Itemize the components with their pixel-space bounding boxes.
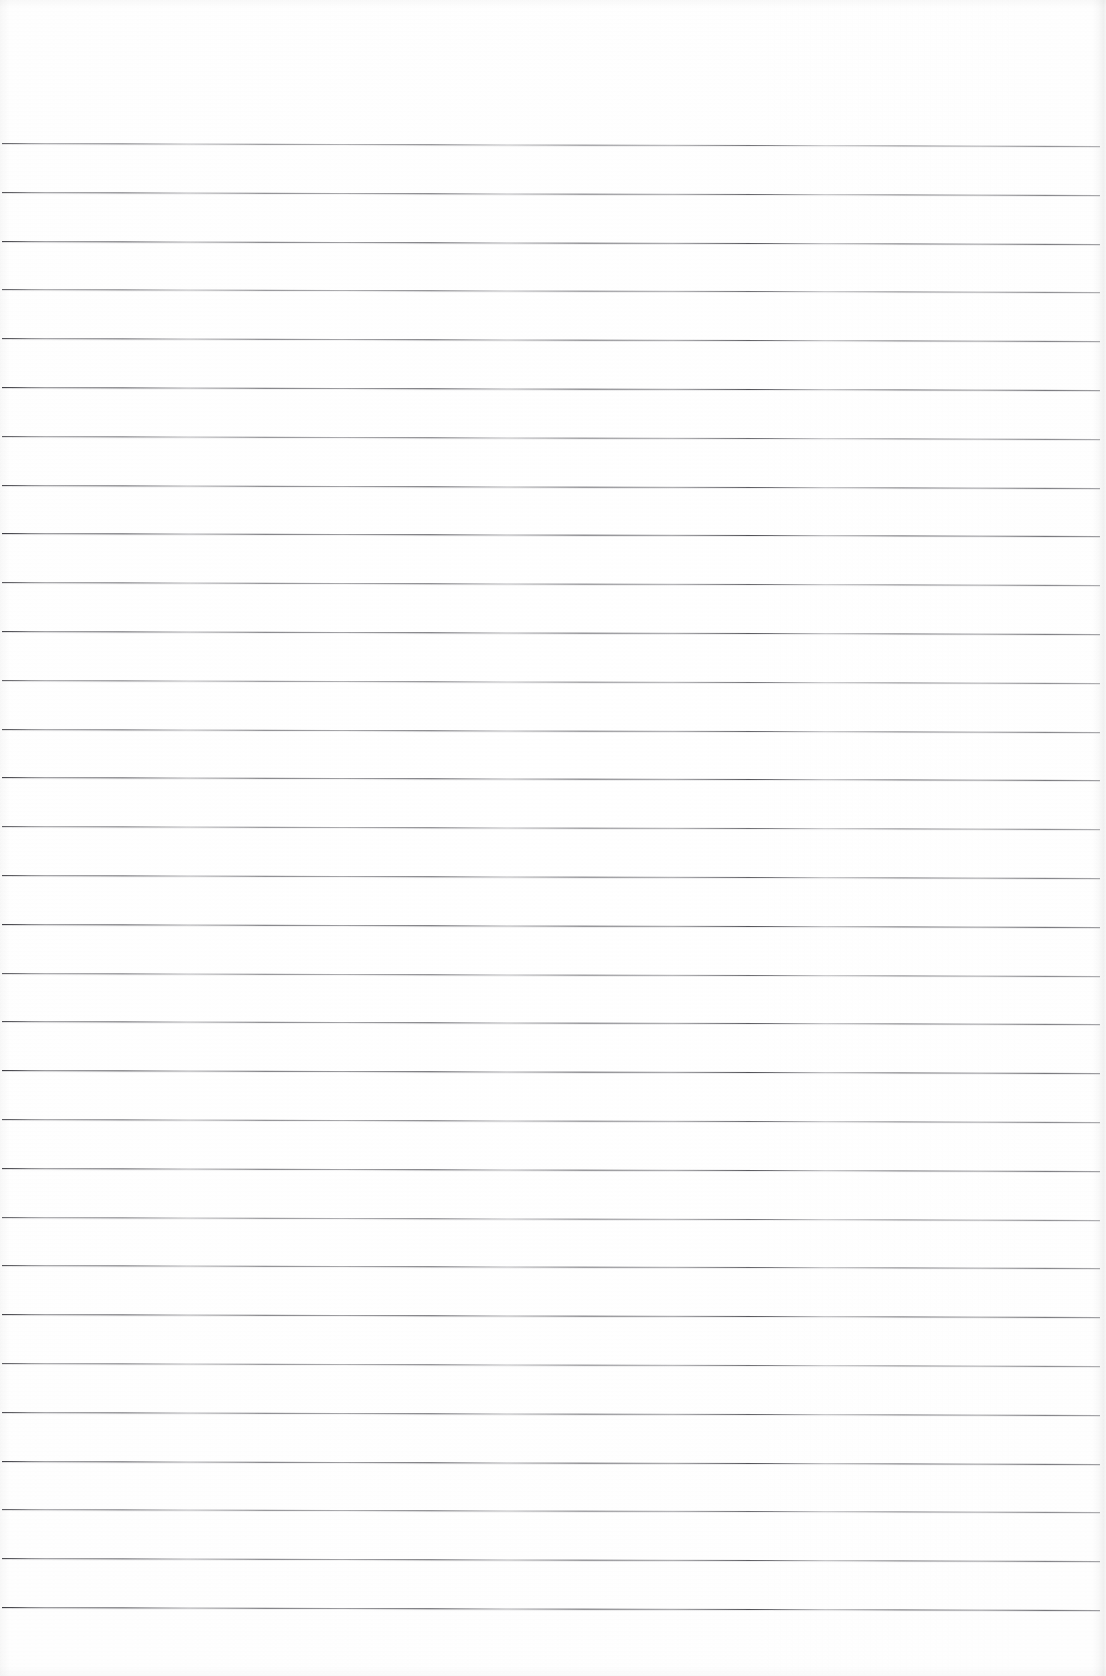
- ruled-line-stroke: [2, 1265, 1100, 1269]
- ruled-line-start-mark: [2, 241, 28, 243]
- ruled-line-stroke: [2, 826, 1100, 830]
- ruled-line-stroke: [2, 143, 1100, 147]
- ruled-line-halo: [2, 730, 1100, 734]
- ruled-line: [2, 337, 1100, 343]
- ruled-line: [2, 1362, 1100, 1368]
- ruled-line-start-mark: [2, 289, 28, 291]
- ruled-line-start-mark: [2, 1412, 28, 1414]
- ruled-line-start-mark: [2, 973, 28, 975]
- ruled-line: [2, 679, 1100, 685]
- ruled-line-stroke: [2, 289, 1100, 293]
- ruled-line-stroke: [2, 387, 1100, 391]
- ruled-line-start-mark: [2, 1119, 28, 1121]
- ruled-line-halo: [2, 1266, 1100, 1270]
- ruled-line-start-mark: [2, 631, 28, 633]
- ruled-line-start-mark: [2, 777, 28, 779]
- ruled-line-stroke: [2, 1607, 1100, 1611]
- ruled-line-halo: [2, 876, 1100, 880]
- ruled-line-halo: [2, 1071, 1100, 1075]
- ruled-line-stroke: [2, 631, 1100, 635]
- ruled-line-start-mark: [2, 1509, 28, 1511]
- ruled-line-halo: [2, 583, 1100, 587]
- ruled-line-start-mark: [2, 533, 28, 535]
- ruled-line-layer: [0, 0, 1106, 1676]
- ruled-line: [2, 972, 1100, 978]
- ruled-line-stroke: [2, 241, 1100, 245]
- ruled-line-start-mark: [2, 1314, 28, 1316]
- ruled-line: [2, 1508, 1100, 1514]
- ruled-line-start-mark: [2, 192, 28, 194]
- ruled-line: [2, 240, 1100, 246]
- ruled-line-halo: [2, 778, 1100, 782]
- ruled-line: [2, 923, 1100, 929]
- ruled-line-halo: [2, 1169, 1100, 1173]
- ruled-line-halo: [2, 632, 1100, 636]
- ruled-line-halo: [2, 339, 1100, 343]
- ruled-line-halo: [2, 1022, 1100, 1026]
- ruled-line: [2, 288, 1100, 294]
- ruled-line-halo: [2, 1120, 1100, 1124]
- ruled-line-stroke: [2, 1021, 1100, 1025]
- ruled-line-halo: [2, 1315, 1100, 1319]
- ruled-line-stroke: [2, 485, 1100, 489]
- ruled-line-start-mark: [2, 387, 28, 389]
- ruled-line-start-mark: [2, 338, 28, 340]
- ruled-line-stroke: [2, 1461, 1100, 1465]
- ruled-line: [2, 435, 1100, 441]
- ruled-line: [2, 1069, 1100, 1075]
- ruled-line: [2, 191, 1100, 197]
- ruled-line: [2, 776, 1100, 782]
- ruled-line: [2, 874, 1100, 880]
- ruled-line-stroke: [2, 1558, 1100, 1562]
- ruled-line: [2, 1411, 1100, 1417]
- ruled-line-start-mark: [2, 485, 28, 487]
- ruled-line-halo: [2, 486, 1100, 490]
- ruled-line-start-mark: [2, 436, 28, 438]
- ruled-line-start-mark: [2, 1461, 28, 1463]
- ruled-line-halo: [2, 242, 1100, 246]
- ruled-line-stroke: [2, 1363, 1100, 1367]
- ruled-line: [2, 142, 1100, 148]
- ruled-line: [2, 386, 1100, 392]
- ruled-line-halo: [2, 1559, 1100, 1563]
- ruled-line-start-mark: [2, 680, 28, 682]
- ruled-line: [2, 1264, 1100, 1270]
- ruled-line-start-mark: [2, 582, 28, 584]
- ruled-line-stroke: [2, 1314, 1100, 1318]
- ruled-line-start-mark: [2, 1070, 28, 1072]
- ruled-line-start-mark: [2, 143, 28, 145]
- ruled-line: [2, 1313, 1100, 1319]
- ruled-line: [2, 484, 1100, 490]
- ruled-line: [2, 1606, 1100, 1612]
- ruled-line-start-mark: [2, 875, 28, 877]
- ruled-line-stroke: [2, 1412, 1100, 1416]
- ruled-line: [2, 1557, 1100, 1563]
- scanned-page: [0, 0, 1106, 1676]
- ruled-line-stroke: [2, 436, 1100, 440]
- ruled-line: [2, 1020, 1100, 1026]
- ruled-line-stroke: [2, 973, 1100, 977]
- ruled-line-halo: [2, 437, 1100, 441]
- ruled-line-start-mark: [2, 924, 28, 926]
- ruled-line-stroke: [2, 1509, 1100, 1513]
- ruled-line-halo: [2, 1364, 1100, 1368]
- ruled-line-stroke: [2, 582, 1100, 586]
- ruled-line-halo: [2, 388, 1100, 392]
- ruled-line-halo: [2, 827, 1100, 831]
- ruled-line-halo: [2, 974, 1100, 978]
- ruled-line-stroke: [2, 924, 1100, 928]
- ruled-line-start-mark: [2, 826, 28, 828]
- ruled-line-stroke: [2, 777, 1100, 781]
- ruled-line-stroke: [2, 1070, 1100, 1074]
- ruled-line-halo: [2, 1608, 1100, 1612]
- ruled-line: [2, 1118, 1100, 1124]
- ruled-line-stroke: [2, 192, 1100, 196]
- ruled-line-start-mark: [2, 1363, 28, 1365]
- ruled-line: [2, 1167, 1100, 1173]
- ruled-line-stroke: [2, 1119, 1100, 1123]
- ruled-line-start-mark: [2, 1021, 28, 1023]
- ruled-line-halo: [2, 290, 1100, 294]
- ruled-line: [2, 532, 1100, 538]
- ruled-line-stroke: [2, 1168, 1100, 1172]
- ruled-line-start-mark: [2, 729, 28, 731]
